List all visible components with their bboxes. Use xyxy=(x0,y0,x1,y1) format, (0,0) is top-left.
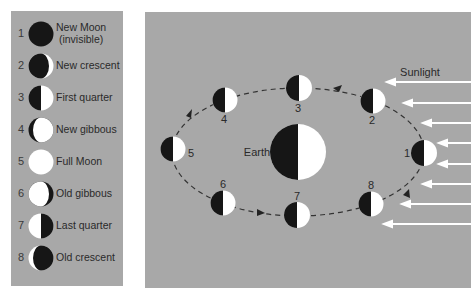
legend-item-last-quarter: 7 Last quarter xyxy=(11,211,123,241)
legend-number: 8 xyxy=(15,251,27,263)
sunlight-arrow-icon xyxy=(404,100,471,106)
orbit-moon-1-label: 1 xyxy=(404,147,410,159)
legend-number: 3 xyxy=(15,91,27,103)
orbit-moon-5-icon xyxy=(161,137,186,162)
legend-label: Full Moon xyxy=(56,155,102,167)
orbit-direction-arrow-icon xyxy=(403,189,410,198)
orbit-diagram: Sunlight Earth 1 2 3 xyxy=(145,12,471,288)
sunlight-arrow-icon xyxy=(384,221,471,227)
legend-number: 5 xyxy=(15,155,27,167)
first-quarter-icon xyxy=(28,85,54,111)
orbit-moon-7-label: 7 xyxy=(294,190,300,202)
orbit-direction-arrow-icon xyxy=(186,109,192,118)
legend-number: 4 xyxy=(15,123,27,135)
moon-phase-legend: 1 New Moon (invisible) 2 New crescent 3 … xyxy=(11,11,123,286)
orbit-direction-arrow-icon xyxy=(257,209,265,216)
sunlight-arrow-icon xyxy=(423,120,471,126)
legend-label-line2: (invisible) xyxy=(59,33,103,45)
legend-item-new-moon: 1 New Moon (invisible) xyxy=(11,19,123,49)
legend-label: Last quarter xyxy=(56,219,112,231)
legend-number: 7 xyxy=(15,219,27,231)
earth-label: Earth xyxy=(244,146,270,158)
orbit-moon-8-label: 8 xyxy=(368,179,374,191)
orbit-moon-5-label: 5 xyxy=(188,147,194,159)
old-gibbous-icon xyxy=(28,181,54,207)
orbit-moon-2-icon xyxy=(361,89,386,114)
legend-label: Old gibbous xyxy=(56,187,112,199)
sunlight-arrow-icon xyxy=(402,201,471,207)
legend-label: New gibbous xyxy=(56,123,117,135)
orbit-moon-6-icon xyxy=(211,191,236,216)
legend-item-full-moon: 5 Full Moon xyxy=(11,147,123,177)
old-crescent-icon xyxy=(28,245,54,271)
legend-item-first-quarter: 3 First quarter xyxy=(11,83,123,113)
sunlight-label: Sunlight xyxy=(400,66,440,78)
legend-item-old-crescent: 8 Old crescent xyxy=(11,243,123,273)
legend-label: Old crescent xyxy=(56,251,115,263)
orbit-moon-3-icon xyxy=(286,75,312,101)
orbit-moon-4-icon xyxy=(213,88,238,113)
legend-number: 2 xyxy=(15,59,27,71)
sunlight-arrow-icon xyxy=(423,181,471,187)
orbit-diagram-svg: Sunlight Earth 1 2 3 xyxy=(145,12,471,288)
sunlight-arrow-icon xyxy=(439,140,471,146)
new-crescent-icon xyxy=(28,53,54,79)
orbit-moon-1-icon xyxy=(411,140,437,166)
legend-number: 1 xyxy=(15,27,27,39)
earth-icon xyxy=(270,124,326,180)
orbit-moon-3-label: 3 xyxy=(295,102,301,114)
last-quarter-icon xyxy=(28,213,54,239)
sunlight-arrow-icon xyxy=(387,79,471,85)
legend-label: First quarter xyxy=(56,91,113,103)
orbit-moon-6-label: 6 xyxy=(220,178,226,190)
legend-item-new-gibbous: 4 New gibbous xyxy=(11,115,123,145)
full-moon-icon xyxy=(28,149,54,175)
orbit-moon-8-icon xyxy=(359,192,384,217)
orbit-moon-7-icon xyxy=(284,202,310,228)
sunlight-arrow-icon xyxy=(439,161,471,167)
legend-item-new-crescent: 2 New crescent xyxy=(11,51,123,81)
orbit-moon-4-label: 4 xyxy=(221,113,227,125)
new-gibbous-icon xyxy=(28,117,54,143)
legend-item-old-gibbous: 6 Old gibbous xyxy=(11,179,123,209)
new-moon-icon xyxy=(28,21,54,47)
legend-label: New Moon (invisible) xyxy=(56,21,106,45)
legend-label-line1: New Moon xyxy=(56,21,106,33)
legend-label: New crescent xyxy=(56,59,120,71)
orbit-moon-2-label: 2 xyxy=(369,114,375,126)
legend-number: 6 xyxy=(15,187,27,199)
